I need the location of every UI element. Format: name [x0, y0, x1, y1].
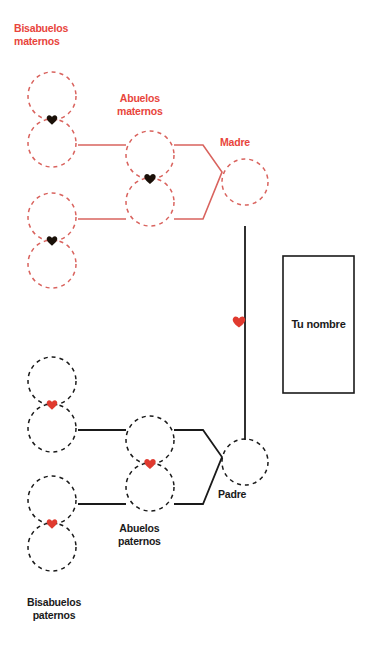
label-madre: Madre — [220, 136, 250, 149]
heart-icon-paternal-great-2 — [47, 519, 58, 528]
circle-great-grandparent-paternal-3[interactable] — [28, 476, 76, 524]
circle-grandparent-maternal-2[interactable] — [126, 178, 174, 226]
circle-grandparent-paternal-1[interactable] — [126, 416, 174, 464]
heart-icon-union — [233, 316, 246, 327]
circle-great-grandparent-paternal-2[interactable] — [28, 404, 76, 452]
circle-father[interactable] — [222, 439, 268, 485]
heart-icon-paternal-grandparents — [144, 459, 155, 469]
paternal-bracket-connector — [174, 430, 222, 504]
heart-icon-maternal-great-2 — [47, 236, 58, 245]
circle-great-grandparent-paternal-1[interactable] — [28, 357, 76, 405]
label-abuelos-paternos: Abuelos paternos — [118, 522, 161, 547]
circle-great-grandparent-maternal-1[interactable] — [28, 72, 76, 120]
label-abuelos-maternos: Abuelos maternos — [117, 92, 163, 117]
family-tree-canvas: Bisabuelos maternos Abuelos maternos Mad… — [0, 0, 373, 648]
circle-great-grandparent-maternal-2[interactable] — [28, 119, 76, 167]
circle-grandparent-maternal-1[interactable] — [126, 131, 174, 179]
heart-icon-maternal-grandparents — [144, 174, 155, 184]
heart-icon-maternal-great-1 — [47, 115, 58, 124]
heart-icon-paternal-great-1 — [47, 400, 58, 409]
circle-grandparent-paternal-2[interactable] — [126, 463, 174, 511]
circle-mother[interactable] — [222, 159, 268, 205]
circle-great-grandparent-paternal-4[interactable] — [28, 523, 76, 571]
label-bisabuelos-maternos: Bisabuelos maternos — [14, 22, 68, 47]
label-bisabuelos-paternos: Bisabuelos paternos — [27, 596, 81, 621]
circle-great-grandparent-maternal-3[interactable] — [28, 193, 76, 241]
label-padre: Padre — [218, 488, 246, 501]
maternal-bracket-connector — [174, 145, 222, 219]
label-tu-nombre: Tu nombre — [283, 256, 354, 393]
circle-great-grandparent-maternal-4[interactable] — [28, 240, 76, 288]
